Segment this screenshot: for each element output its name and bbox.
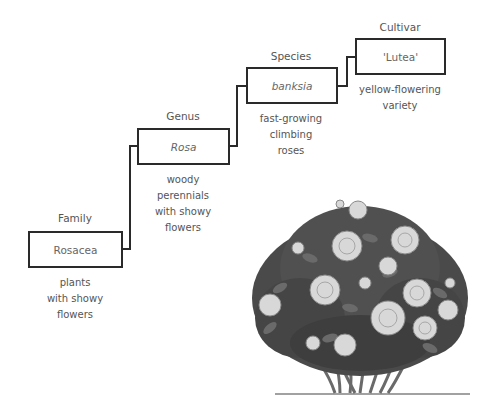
desc-family: plants with showy flowers [20,275,130,323]
desc-line: with showy [128,204,238,220]
rank-label-species: Species [241,50,341,62]
desc-species: fast-growing climbing roses [236,111,346,159]
node-species-name: banksia [272,80,313,92]
node-cultivar: 'Lutea' [355,38,446,75]
desc-line: yellow-flowering [345,82,455,98]
desc-line: perennials [128,188,238,204]
desc-line: with showy [20,291,130,307]
desc-genus: woody perennials with showy flowers [128,172,238,236]
desc-line: flowers [20,307,130,323]
desc-line: woody [128,172,238,188]
desc-cultivar: yellow-flowering variety [345,82,455,114]
node-species: banksia [246,67,338,104]
desc-line: fast-growing [236,111,346,127]
node-cultivar-name: 'Lutea' [383,51,418,63]
rank-label-cultivar: Cultivar [350,21,450,33]
desc-line: flowers [128,220,238,236]
desc-line: roses [236,143,346,159]
desc-line: plants [20,275,130,291]
rose-bush-icon [240,198,480,403]
node-family-name: Rosacea [54,244,98,256]
node-genus: Rosa [137,128,230,165]
rank-label-family: Family [25,212,125,224]
desc-line: variety [345,98,455,114]
node-genus-name: Rosa [171,141,197,153]
node-family: Rosacea [28,231,123,268]
desc-line: climbing [236,127,346,143]
rank-label-genus: Genus [133,110,233,122]
